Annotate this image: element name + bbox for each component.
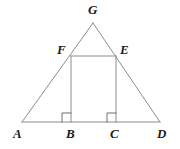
figure-canvas — [0, 0, 180, 149]
vertex-label-G: G — [88, 3, 97, 16]
rectangle-FBCE — [71, 56, 116, 122]
vertex-label-F: F — [57, 43, 66, 56]
right-angle-at-C-icon — [107, 113, 116, 122]
geometry-figure: G F E A B C D — [0, 0, 180, 149]
triangle-AGD — [22, 23, 160, 122]
vertex-label-D: D — [157, 127, 166, 140]
vertex-label-B: B — [66, 127, 75, 140]
segment-AG — [22, 23, 93, 122]
vertex-label-E: E — [120, 43, 129, 56]
vertex-label-C: C — [110, 127, 119, 140]
vertex-label-A: A — [13, 127, 22, 140]
right-angle-marks — [62, 113, 116, 122]
right-angle-at-B-icon — [62, 113, 71, 122]
segment-GD — [93, 23, 160, 122]
